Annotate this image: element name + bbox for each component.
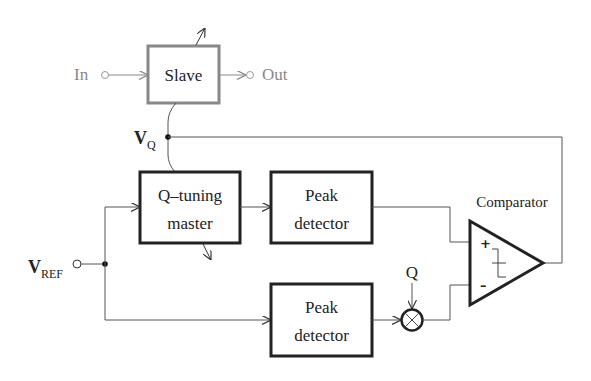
q-tuning-master-section: Q–tuning master — [140, 172, 271, 260]
vref-terminal-icon — [73, 260, 81, 268]
slave-label: Slave — [165, 66, 203, 85]
master-tuning-arrow-icon — [203, 244, 211, 260]
vref-label: VREF — [28, 257, 63, 281]
comparator-label: Comparator — [476, 194, 548, 210]
vq-label: VQ — [134, 128, 156, 152]
in-label: In — [74, 65, 89, 84]
diagram-canvas: In Slave Out VQ Q–tuning master Peak det… — [0, 0, 591, 381]
slave-section: In Slave Out — [74, 28, 288, 103]
peak-detector-bottom-line2: detector — [294, 326, 349, 345]
vref-to-master-arrow — [105, 207, 140, 264]
comparator-minus-sign: – — [480, 278, 487, 293]
in-terminal-icon — [102, 72, 109, 79]
multiplier-section: Q — [402, 263, 471, 331]
peak-top-to-comparator-plus — [372, 207, 470, 242]
comparator-section: Comparator + – — [470, 194, 548, 305]
peak-detector-top-line1: Peak — [305, 186, 339, 205]
peak-detector-top-section: Peak detector — [271, 172, 470, 243]
comparator-plus-sign: + — [480, 236, 491, 251]
slave-tuning-arrow-icon — [196, 28, 205, 45]
multiplier-to-comparator-minus — [423, 285, 471, 320]
peak-detector-bottom-block — [271, 284, 372, 356]
peak-detector-bottom-line1: Peak — [305, 298, 339, 317]
peak-detector-bottom-section: Peak detector — [271, 284, 401, 356]
vref-to-peak-bottom-arrow — [105, 264, 271, 320]
out-terminal-icon — [247, 72, 254, 79]
peak-detector-top-line2: detector — [294, 214, 349, 233]
q-input-label: Q — [406, 263, 418, 282]
q-tuning-master-label-line2: master — [167, 214, 213, 233]
out-label: Out — [262, 65, 288, 84]
q-tuning-master-label-line1: Q–tuning — [158, 186, 223, 205]
